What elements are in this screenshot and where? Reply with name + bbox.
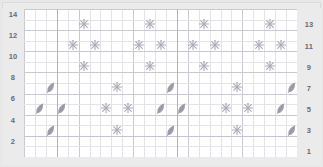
row-number-right-1: 1 [297,147,321,156]
repeat-divider-line [177,9,178,157]
row-number-left-2: 2 [2,137,24,146]
gridline-horizontal [24,41,297,42]
gridline-horizontal [24,9,297,10]
gridline-horizontal [24,83,297,84]
row-number-left-8: 8 [2,73,24,82]
row-number-left-12: 12 [2,31,24,40]
row-numbers-left: 1412108642 [2,8,24,158]
row-number-left-6: 6 [2,94,24,103]
row-number-left-10: 10 [2,52,24,61]
gridline-horizontal [24,72,297,73]
knitting-chart-screenshot: 1412108642 131197531 [0,0,323,167]
row-number-right-5: 5 [297,105,321,114]
gridline-horizontal [24,94,297,95]
chart-grid-area[interactable] [24,9,297,157]
row-number-right-11: 11 [297,42,321,51]
row-baseline-rule [24,136,297,137]
row-numbers-right: 131197531 [297,8,321,158]
row-number-right-7: 7 [297,84,321,93]
repeat-divider-line [57,9,58,157]
row-number-right-13: 13 [297,20,321,29]
gridline-horizontal [24,115,297,116]
gridline-horizontal [24,30,297,31]
gridline-horizontal [24,125,297,126]
row-number-right-9: 9 [297,63,321,72]
row-number-left-14: 14 [2,10,24,19]
gridline-horizontal [24,104,297,105]
gridline-horizontal [24,146,297,147]
gridline-horizontal [24,20,297,21]
frame-bottom-edge [2,157,321,165]
row-number-right-3: 3 [297,126,321,135]
row-number-left-4: 4 [2,116,24,125]
gridline-horizontal [24,51,297,52]
gridline-horizontal [24,62,297,63]
